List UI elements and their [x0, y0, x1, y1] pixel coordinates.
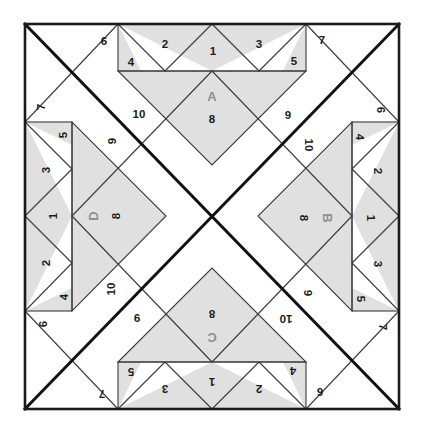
quilt-block-diagram: 6421357A8109 6421357B8109 6421357C8109 6…	[0, 0, 422, 442]
piece-number-right-1: 1	[365, 215, 377, 222]
section-label-left-D: D	[86, 211, 101, 220]
piece-number-left-10: 10	[105, 283, 117, 296]
piece-number-right-6: 6	[375, 107, 387, 113]
piece-number-left-5: 5	[57, 131, 69, 138]
piece-number-left-9: 9	[106, 138, 118, 144]
piece-number-bottom-5: 5	[127, 366, 134, 378]
piece-number-top-10: 10	[133, 108, 146, 120]
piece-number-right-8: 8	[298, 215, 310, 222]
piece-number-right-10: 10	[303, 139, 315, 152]
piece-number-bottom-2: 2	[256, 383, 262, 395]
piece-number-top-1: 1	[210, 45, 217, 57]
piece-number-left-3: 3	[40, 167, 52, 173]
piece-number-left-6: 6	[37, 321, 49, 327]
piece-number-bottom-8: 8	[208, 308, 215, 320]
section-label-right-B: B	[320, 213, 335, 222]
piece-number-left-2: 2	[40, 260, 52, 266]
piece-number-right-4: 4	[354, 134, 366, 141]
piece-number-bottom-7: 7	[99, 388, 105, 400]
piece-number-bottom-1: 1	[208, 376, 215, 388]
piece-number-right-2: 2	[372, 168, 384, 174]
piece-number-top-9: 9	[285, 109, 291, 121]
piece-number-top-4: 4	[128, 56, 135, 68]
piece-number-top-5: 5	[291, 55, 298, 67]
piece-number-left-4: 4	[58, 293, 70, 300]
piece-number-bottom-9: 9	[134, 312, 140, 324]
block-body	[25, 24, 399, 409]
piece-number-right-3: 3	[372, 261, 384, 267]
piece-number-bottom-6: 6	[317, 386, 323, 398]
section-label-top-A: A	[207, 89, 217, 104]
piece-number-top-3: 3	[256, 38, 262, 50]
piece-number-right-7: 7	[377, 324, 389, 330]
section-label-bottom-C: C	[207, 330, 217, 345]
piece-number-bottom-4: 4	[289, 365, 296, 377]
piece-number-top-2: 2	[162, 38, 168, 50]
piece-number-bottom-10: 10	[280, 313, 293, 325]
piece-number-top-6: 6	[101, 35, 107, 47]
piece-number-left-1: 1	[47, 212, 59, 219]
piece-number-left-7: 7	[35, 104, 47, 110]
piece-number-top-7: 7	[319, 34, 325, 46]
piece-number-left-8: 8	[110, 212, 122, 219]
quilt-block-svg: 6421357A8109 6421357B8109 6421357C8109 6…	[0, 0, 422, 442]
piece-number-right-9: 9	[302, 290, 314, 296]
piece-number-right-5: 5	[355, 296, 367, 303]
piece-number-bottom-3: 3	[162, 383, 168, 395]
piece-number-top-8: 8	[209, 113, 216, 125]
